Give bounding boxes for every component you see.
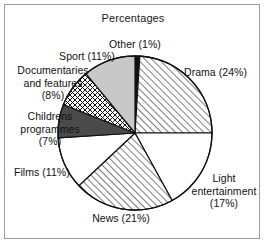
slice-label-documentaries-line2: and features	[6, 77, 100, 90]
slice-label-light-line3: (17%)	[186, 197, 262, 210]
chart-page: Percentages Other (1%) Sport (11%) Drama…	[0, 0, 266, 245]
slice-label-documentaries: Documentaries and features (8%)	[6, 64, 100, 102]
slice-label-light-line2: entertainment	[186, 185, 262, 198]
slice-label-documentaries-line1: Documentaries	[6, 64, 100, 77]
slice-label-childrens: Childrens programmes (7%)	[4, 110, 96, 148]
slice-label-films: Films (11%)	[14, 166, 100, 179]
slice-label-childrens-line1: Childrens	[4, 110, 96, 123]
slice-label-light-line1: Light	[186, 172, 262, 185]
slice-label-documentaries-line3: (8%)	[6, 89, 100, 102]
slice-label-childrens-line2: programmes	[4, 123, 96, 136]
slice-label-light-entertainment: Light entertainment (17%)	[186, 172, 262, 210]
slice-label-childrens-line3: (7%)	[4, 135, 96, 148]
slice-label-drama: Drama (24%)	[184, 66, 264, 79]
slice-label-sport: Sport (11%)	[48, 50, 126, 63]
slice-label-news: News (21%)	[76, 212, 166, 225]
slice-label-other: Other (1%)	[96, 38, 174, 51]
